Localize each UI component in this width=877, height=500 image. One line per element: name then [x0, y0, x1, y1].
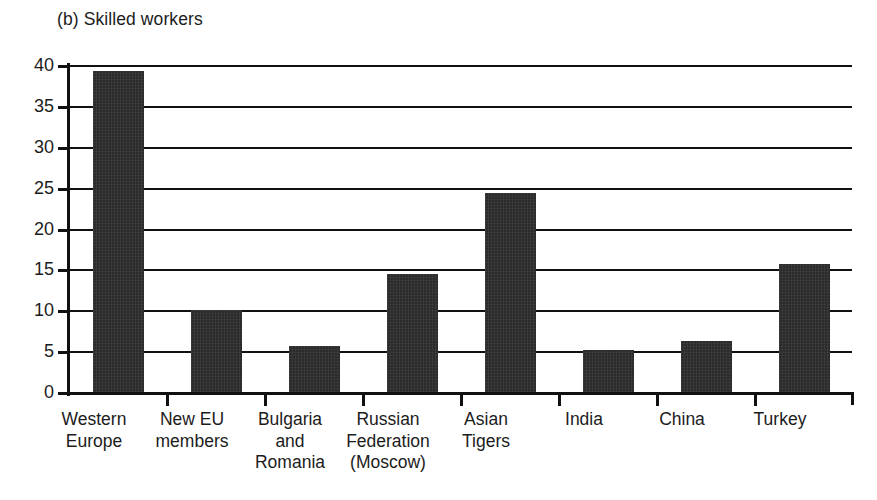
category-label-new-eu-members: New EUmembers	[142, 409, 242, 452]
bar-asian-tigers	[485, 193, 536, 392]
category-label-line: Bulgaria	[240, 409, 340, 431]
y-axis-label-35: 35	[8, 95, 54, 116]
x-tick-1	[166, 393, 169, 406]
y-axis-label-0: 0	[8, 382, 54, 403]
gridline-40	[68, 65, 852, 67]
category-label-turkey: Turkey	[730, 409, 830, 431]
bar-russian-federation	[387, 274, 438, 392]
category-label-asian-tigers: AsianTigers	[436, 409, 536, 452]
y-axis-label-40: 40	[8, 55, 54, 76]
category-label-bulgaria-romania: BulgariaandRomania	[240, 409, 340, 474]
y-axis-label-15: 15	[8, 259, 54, 280]
x-tick-5	[558, 393, 561, 406]
bar-china	[681, 341, 732, 392]
category-label-line: Tigers	[436, 431, 536, 453]
category-label-line: China	[632, 409, 732, 431]
gridline-25	[68, 188, 852, 190]
gridline-35	[68, 106, 852, 108]
chart-title: (b) Skilled workers	[57, 9, 203, 30]
category-label-line: Russian	[333, 409, 443, 431]
x-tick-6	[656, 393, 659, 406]
bar-western-europe	[93, 71, 144, 392]
bar-chart-figure: (b) Skilled workers 40 35 30 25 20 15 10…	[0, 0, 877, 500]
category-label-line: Western	[44, 409, 144, 431]
category-label-line: Asian	[436, 409, 536, 431]
x-tick-3	[362, 393, 365, 406]
y-axis-label-30: 30	[8, 136, 54, 157]
category-label-line: Europe	[44, 431, 144, 453]
category-label-india: India	[534, 409, 634, 431]
category-label-line: India	[534, 409, 634, 431]
bar-new-eu-members	[191, 310, 242, 392]
category-label-china: China	[632, 409, 732, 431]
bar-india	[583, 350, 634, 393]
category-label-western-europe: WesternEurope	[44, 409, 144, 452]
gridline-15	[68, 269, 852, 271]
gridline-20	[68, 229, 852, 231]
category-label-line: (Moscow)	[333, 452, 443, 474]
category-label-line: members	[142, 431, 242, 453]
category-label-line: Romania	[240, 452, 340, 474]
bar-bulgaria-romania	[289, 346, 340, 392]
y-axis-label-10: 10	[8, 300, 54, 321]
category-label-line: and	[240, 431, 340, 453]
x-tick-2	[264, 393, 267, 406]
y-axis-label-20: 20	[8, 218, 54, 239]
x-tick-7	[754, 393, 757, 406]
gridline-5	[68, 351, 852, 353]
y-axis-tick-labels: 40 35 30 25 20 15 10 5 0	[0, 65, 54, 392]
gridline-10	[68, 310, 852, 312]
gridline-30	[68, 147, 852, 149]
x-tick-4	[460, 393, 463, 406]
category-label-line: Turkey	[730, 409, 830, 431]
category-label-line: Federation	[333, 431, 443, 453]
y-axis-label-5: 5	[8, 341, 54, 362]
x-axis-right-cap	[851, 392, 854, 405]
category-label-russian-federation: RussianFederation(Moscow)	[333, 409, 443, 474]
category-label-line: New EU	[142, 409, 242, 431]
bar-turkey	[779, 264, 830, 392]
plot-area	[68, 65, 852, 392]
y-axis-label-25: 25	[8, 177, 54, 198]
